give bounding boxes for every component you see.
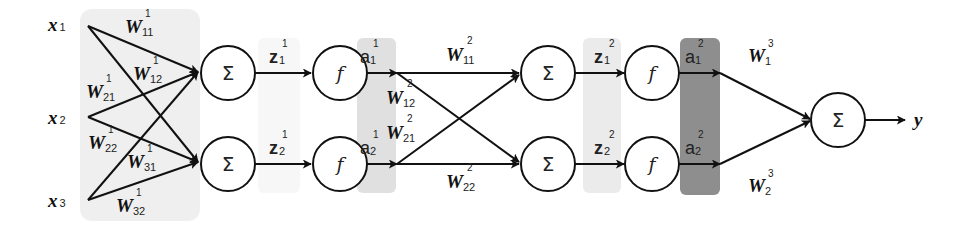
weight-w22-2: W22 2 (446, 162, 475, 193)
layer1-activation-node-2: f (313, 137, 367, 191)
svg-text:2: 2 (407, 113, 413, 124)
layer1-sum-node-2: Σ (201, 137, 255, 191)
layer2-activation-node-2: f (625, 137, 679, 191)
svg-text:Σ: Σ (542, 61, 555, 85)
svg-text:3: 3 (768, 168, 774, 179)
output-y-label: y (912, 109, 923, 130)
layer2-sum-node-1: Σ (521, 46, 575, 100)
svg-text:1: 1 (108, 124, 114, 135)
svg-text:1: 1 (106, 73, 112, 84)
svg-text:2: 2 (698, 129, 704, 140)
svg-text:W22: W22 (446, 171, 475, 193)
svg-text:1: 1 (145, 8, 151, 19)
svg-text:1: 1 (282, 129, 288, 140)
layer2-edges (397, 73, 519, 164)
output-sum-node: Σ (811, 93, 865, 147)
svg-text:2: 2 (467, 35, 473, 46)
svg-text:1: 1 (153, 55, 159, 66)
layer1-activation-node-1: f (313, 46, 367, 100)
layer3-edges (720, 73, 810, 164)
svg-text:2: 2 (467, 162, 473, 173)
input-x3: x3 (47, 190, 66, 211)
layer1-sum-node-1: Σ (201, 46, 255, 100)
svg-text:3: 3 (768, 38, 774, 49)
svg-text:W12: W12 (386, 87, 415, 109)
svg-text:2: 2 (407, 78, 413, 89)
svg-text:2: 2 (609, 129, 615, 140)
svg-text:x1: x1 (47, 14, 66, 35)
layer2-sum-node-2: Σ (521, 137, 575, 191)
svg-text:Σ: Σ (222, 61, 235, 85)
weight-w11-2: W11 2 (446, 35, 474, 66)
weight-w1-3: W1 3 (748, 38, 774, 67)
input-x2: x2 (47, 107, 66, 128)
svg-text:2: 2 (698, 38, 704, 49)
svg-text:Σ: Σ (542, 152, 555, 176)
svg-text:2: 2 (609, 38, 615, 49)
weight-w2-3: W2 3 (748, 168, 774, 197)
svg-text:1: 1 (136, 187, 142, 198)
neural-network-diagram: x1 x2 x3 W11 1 W12 1 W21 1 W22 1 W31 1 W… (0, 0, 972, 225)
svg-text:Σ: Σ (832, 108, 845, 132)
svg-text:W21: W21 (386, 122, 415, 144)
svg-text:W11: W11 (446, 44, 474, 66)
svg-text:x3: x3 (47, 190, 66, 211)
svg-text:x2: x2 (47, 107, 66, 128)
svg-text:Σ: Σ (222, 152, 235, 176)
layer2-activation-node-1: f (625, 46, 679, 100)
svg-text:1: 1 (147, 143, 153, 154)
input-x1: x1 (47, 14, 66, 35)
svg-text:1: 1 (373, 38, 379, 49)
svg-text:1: 1 (282, 38, 288, 49)
svg-text:1: 1 (373, 129, 379, 140)
